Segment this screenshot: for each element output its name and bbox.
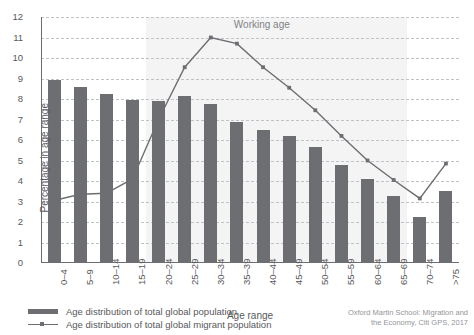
line-path (54, 38, 446, 201)
line-marker (366, 159, 370, 163)
line-series (41, 17, 459, 263)
y-tick-label: 7 (0, 115, 23, 125)
x-tick-label: 40–44 (267, 259, 278, 285)
source-attribution: Oxford Martin School: Migration and the … (348, 308, 468, 328)
legend-item-label: Age distribution of total global migrant… (66, 319, 271, 330)
line-marker (261, 65, 265, 69)
line-marker (287, 86, 291, 90)
legend-line-swatch-icon (28, 321, 58, 328)
legend-item-label: Age distribution of total global populat… (66, 306, 237, 317)
legend-item[interactable]: Age distribution of total global migrant… (28, 318, 271, 331)
x-tick-label: 20–24 (163, 259, 174, 285)
line-marker (209, 36, 213, 40)
plot-area: 0123456789101112 0–45–910–1415–1920–2425… (41, 17, 459, 263)
x-tick-label: >75 (450, 269, 461, 285)
x-tick-label: 5–9 (84, 269, 95, 285)
line-marker (131, 177, 135, 181)
y-tick-label: 2 (0, 217, 23, 227)
x-tick-label: 35–39 (241, 259, 252, 285)
x-tick-label: 70–74 (424, 259, 435, 285)
plot-inner: 0123456789101112 0–45–910–1415–1920–2425… (41, 17, 459, 263)
x-tick-label: 25–29 (189, 259, 200, 285)
y-axis-title: Percentage in age range (39, 103, 50, 213)
line-marker (392, 178, 396, 182)
x-tick-label: 65–69 (398, 259, 409, 285)
y-tick-label: 10 (0, 53, 23, 63)
x-tick-label: 0–4 (58, 269, 69, 285)
line-marker (104, 191, 108, 195)
x-tick-label: 55–59 (345, 259, 356, 285)
line-marker (183, 65, 187, 69)
y-tick-label: 9 (0, 74, 23, 84)
working-age-annotation: Working age (234, 19, 290, 30)
x-tick-label: 45–49 (293, 259, 304, 285)
y-tick-label: 3 (0, 197, 23, 207)
y-tick-label: 1 (0, 238, 23, 248)
y-tick-label: 12 (0, 12, 23, 22)
y-tick-label: 0 (0, 258, 23, 268)
y-tick-label: 11 (0, 33, 23, 43)
line-marker (157, 118, 161, 122)
x-tick-label: 10–14 (110, 259, 121, 285)
y-tick-label: 8 (0, 94, 23, 104)
line-marker (78, 192, 82, 196)
chart-figure: 0123456789101112 0–45–910–1415–1920–2425… (0, 0, 474, 335)
x-tick-label: 60–64 (372, 259, 383, 285)
x-tick-label: 50–54 (319, 259, 330, 285)
line-marker (52, 199, 56, 203)
line-marker (444, 162, 448, 166)
line-marker (340, 134, 344, 138)
x-tick-label: 15–19 (136, 259, 147, 285)
x-tick-label: 30–34 (215, 259, 226, 285)
y-tick-label: 5 (0, 156, 23, 166)
legend-item[interactable]: Age distribution of total global populat… (28, 305, 271, 318)
line-marker (313, 108, 317, 112)
legend: Age distribution of total global populat… (28, 305, 271, 331)
legend-bar-swatch-icon (28, 309, 58, 314)
y-tick-label: 4 (0, 176, 23, 186)
line-marker (235, 42, 239, 46)
line-marker (418, 197, 422, 201)
y-tick-label: 6 (0, 135, 23, 145)
